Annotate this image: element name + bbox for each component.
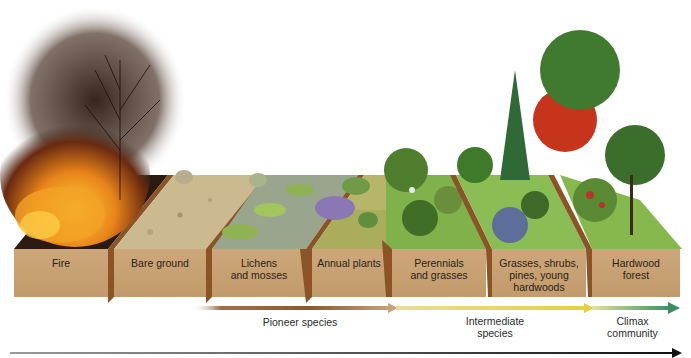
stage-label-bare-ground: Bare ground (114, 249, 206, 297)
stage-text: Fire (52, 257, 70, 269)
phase-label-pioneer: Pioneer species (240, 316, 360, 328)
hardwood-tree-icon (540, 30, 620, 110)
time-arrow (10, 348, 682, 358)
stage-label-perennials-grasses: Perennials and grasses (392, 249, 486, 297)
intermediate-arrow (396, 306, 586, 310)
stage-label-hardwood-forest: Hardwood forest (592, 249, 680, 297)
arrowhead-icon (672, 348, 682, 358)
rock-icon (249, 173, 267, 187)
phase-label-climax: Climax community (590, 315, 675, 339)
climax-arrow (592, 306, 670, 310)
stage-label-fire: Fire (14, 249, 108, 297)
stage-label-annual-plants: Annual plants (312, 249, 386, 297)
phase-text: Climax community (607, 315, 658, 339)
phase-text: Pioneer species (263, 316, 338, 328)
phase-label-intermediate: Intermediate species (445, 315, 545, 339)
succession-diagram (0, 0, 691, 358)
stage-text: Grasses, shrubs, pines, young hardwoods (499, 257, 578, 293)
stage-text: Perennials and grasses (410, 257, 467, 281)
phase-arrows (190, 302, 680, 314)
stage-text: Lichens and mosses (231, 257, 288, 281)
rock-icon (175, 170, 193, 184)
stage-text: Hardwood forest (612, 257, 660, 281)
stage-label-grasses-shrubs-pines: Grasses, shrubs, pines, young hardwoods (492, 249, 586, 297)
stage-text: Bare ground (131, 257, 189, 269)
phase-text: Intermediate species (466, 315, 524, 339)
pioneer-arrow (190, 306, 390, 310)
stage-label-lichens-mosses: Lichens and mosses (212, 249, 306, 297)
pine-tree-icon (500, 70, 530, 180)
hardwood-tree-icon (605, 125, 665, 185)
stage-text: Annual plants (317, 257, 381, 269)
